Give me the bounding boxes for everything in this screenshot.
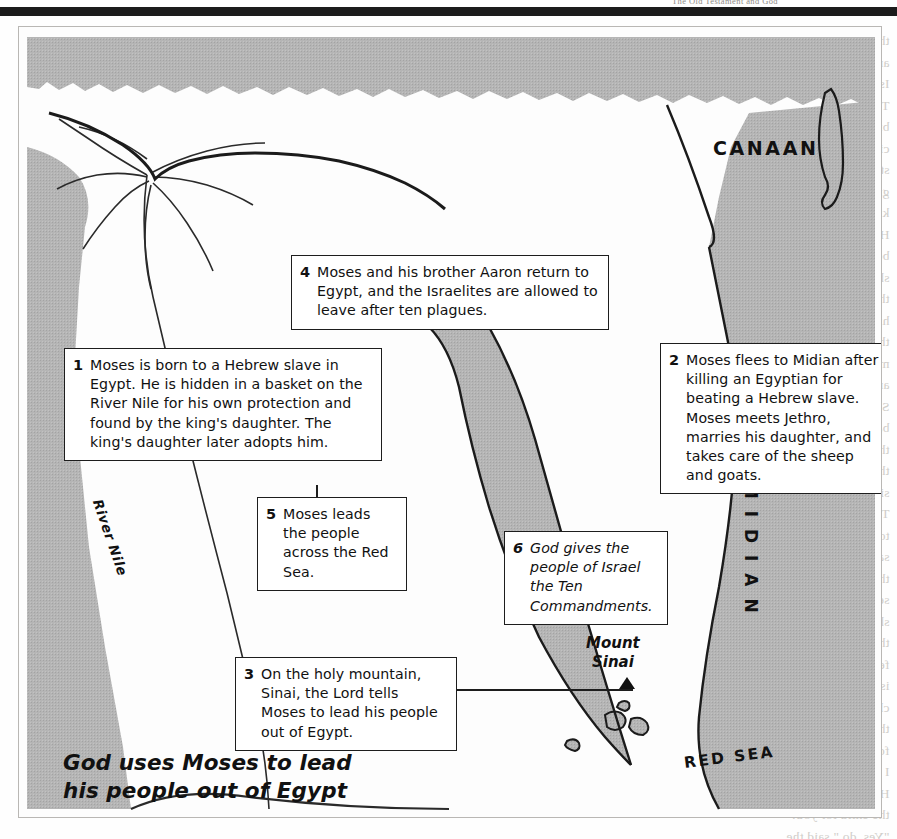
header-rule xyxy=(0,7,897,16)
callout-box-3[interactable]: 3 On the holy mountain, Sinai, the Lord … xyxy=(235,657,457,751)
callout-box-1[interactable]: 1 Moses is born to a Hebrew slave in Egy… xyxy=(64,348,382,461)
callout-text-1: Moses is born to a Hebrew slave in Egypt… xyxy=(90,356,371,452)
leader-line-callout-3 xyxy=(457,689,633,691)
mountain-peak-icon xyxy=(619,677,635,689)
sinai-peninsula xyxy=(428,289,629,763)
callout-box-6[interactable]: 6 God gives the people of Israel the Ten… xyxy=(504,531,668,625)
callout-number-3: 3 xyxy=(244,665,254,684)
map-illustration: CANAAN E G Y P T River Nile M I D I A N … xyxy=(18,26,882,818)
mediterranean-landmass xyxy=(27,37,875,107)
callout-text-2: Moses flees to Midian after killing an E… xyxy=(686,351,882,485)
callout-number-1: 1 xyxy=(73,356,83,375)
callout-box-4[interactable]: 4 Moses and his brother Aaron return to … xyxy=(291,255,609,330)
callout-text-6: God gives the people of Israel the Ten C… xyxy=(530,539,657,616)
map-caption: God uses Moses to lead his people out of… xyxy=(63,749,393,805)
callout-number-6: 6 xyxy=(513,539,523,558)
callout-box-2[interactable]: 2 Moses flees to Midian after killing an… xyxy=(660,343,882,494)
callout-number-5: 5 xyxy=(266,505,276,524)
page-canvas: The Old Testament and God the cruel rule… xyxy=(0,0,897,839)
callout-text-3: On the holy mountain, Sinai, the Lord te… xyxy=(261,665,446,742)
callout-number-4: 4 xyxy=(300,263,310,282)
callout-text-5: Moses leads the people across the Red Se… xyxy=(283,505,396,582)
callout-text-4: Moses and his brother Aaron return to Eg… xyxy=(317,263,598,321)
nile-delta-outline xyxy=(49,113,445,209)
canaan-coast-outline xyxy=(667,105,714,247)
callout-box-5[interactable]: 5 Moses leads the people across the Red … xyxy=(257,497,407,591)
callout-number-2: 2 xyxy=(669,351,679,370)
